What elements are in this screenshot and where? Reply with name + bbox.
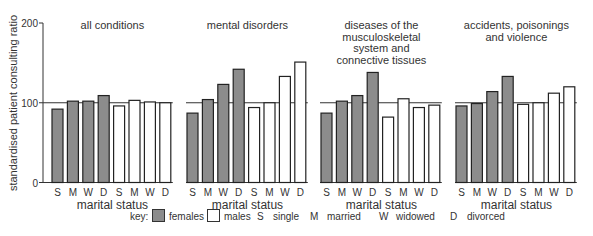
bar-females-W — [218, 84, 229, 182]
bar-females-W — [487, 92, 498, 183]
x-tick-label: M — [338, 187, 346, 198]
bar-females-S — [187, 113, 198, 182]
x-tick-label: D — [504, 187, 511, 198]
bar-males-D — [429, 105, 440, 182]
x-tick-label: S — [520, 187, 527, 198]
y-tick-label: 0 — [32, 178, 38, 189]
x-tick-label: M — [130, 187, 138, 198]
x-tick-label: M — [204, 187, 212, 198]
x-axis-label: marital status — [212, 198, 283, 212]
bar-females-M — [471, 104, 482, 183]
panel-title: connective tissues — [336, 54, 426, 66]
x-tick-label: M — [265, 187, 273, 198]
x-tick-label: M — [534, 187, 542, 198]
bar-males-S — [518, 104, 529, 182]
bar-males-S — [249, 108, 260, 183]
x-tick-label: S — [458, 187, 465, 198]
legend-code-s: S — [257, 211, 264, 222]
x-tick-label: D — [369, 187, 376, 198]
bar-females-D — [233, 69, 244, 182]
x-tick-label: W — [219, 187, 229, 198]
legend-code-w: W — [379, 211, 388, 222]
x-tick-label: S — [116, 187, 123, 198]
bar-males-W — [413, 108, 424, 183]
x-axis-label: marital status — [481, 198, 552, 212]
panel-title: diseases of the — [344, 19, 418, 31]
bar-males-D — [295, 62, 306, 182]
x-tick-label: S — [323, 187, 330, 198]
bar-males-M — [264, 103, 275, 183]
legend-text-married: married — [327, 211, 361, 222]
x-tick-label: M — [399, 187, 407, 198]
bar-males-M — [398, 99, 409, 183]
legend-text-widowed: widowed — [396, 211, 435, 222]
x-tick-label: D — [566, 187, 573, 198]
panel-title: system and — [353, 42, 409, 54]
x-tick-label: D — [431, 187, 438, 198]
legend-code-d: D — [450, 211, 457, 222]
x-tick-label: W — [145, 187, 155, 198]
x-tick-label: D — [100, 187, 107, 198]
x-tick-label: S — [189, 187, 196, 198]
x-tick-label: D — [162, 187, 169, 198]
y-axis-label: standardised patient consulting ratio — [7, 15, 19, 191]
bar-males-S — [114, 106, 125, 183]
bar-males-M — [533, 103, 544, 183]
x-tick-label: W — [353, 187, 363, 198]
x-tick-label: S — [385, 187, 392, 198]
bar-females-D — [98, 96, 109, 183]
x-tick-label: D — [297, 187, 304, 198]
chart: 0100200standardised patient consulting r… — [0, 0, 593, 236]
legend-swatch-males — [207, 209, 220, 222]
bar-males-W — [279, 76, 290, 182]
x-tick-label: D — [235, 187, 242, 198]
bar-females-M — [202, 100, 213, 183]
x-tick-label: W — [280, 187, 290, 198]
x-tick-label: M — [473, 187, 481, 198]
legend-text-single: single — [273, 211, 299, 222]
panel-title: all conditions — [81, 19, 145, 31]
y-tick-label: 200 — [21, 18, 38, 29]
legend-code-m: M — [310, 211, 318, 222]
bar-males-M — [129, 100, 140, 182]
bar-females-S — [456, 106, 467, 183]
x-tick-label: W — [488, 187, 498, 198]
x-tick-label: W — [84, 187, 94, 198]
bar-males-D — [160, 103, 171, 183]
bar-females-W — [83, 101, 94, 182]
legend-label-females: females — [169, 211, 204, 222]
legend-label-males: males — [224, 211, 251, 222]
bar-females-D — [367, 72, 378, 182]
x-tick-label: W — [549, 187, 559, 198]
x-tick-label: S — [251, 187, 258, 198]
panel-title: mental disorders — [207, 19, 289, 31]
x-axis-label: marital status — [346, 198, 417, 212]
panel-title: and violence — [486, 31, 548, 43]
x-tick-label: S — [54, 187, 61, 198]
bar-females-M — [67, 101, 78, 182]
y-tick-label: 100 — [21, 98, 38, 109]
x-tick-label: M — [69, 187, 77, 198]
x-tick-label: W — [414, 187, 424, 198]
bar-males-D — [564, 87, 575, 183]
bar-females-S — [52, 109, 63, 182]
legend-key-label: key: — [130, 211, 148, 222]
legend-text-divorced: divorced — [467, 211, 505, 222]
panel-title: musculoskeletal — [342, 31, 420, 43]
bar-females-W — [352, 96, 363, 183]
x-axis-label: marital status — [77, 198, 148, 212]
bar-males-W — [144, 102, 155, 183]
panel-title: accidents, poisonings — [464, 19, 570, 31]
bar-males-W — [548, 93, 559, 182]
bar-females-S — [321, 113, 332, 182]
bar-males-S — [383, 117, 394, 182]
bar-females-D — [502, 76, 513, 182]
legend-swatch-females — [152, 209, 165, 222]
bar-females-M — [336, 101, 347, 182]
